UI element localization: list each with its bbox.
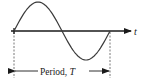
sine-period-diagram: t Period, T — [0, 0, 144, 81]
period-symbol: T — [70, 66, 77, 77]
period-label-text: Period, — [40, 67, 70, 77]
period-label: Period, T — [40, 66, 77, 77]
time-axis-label: t — [134, 26, 137, 37]
